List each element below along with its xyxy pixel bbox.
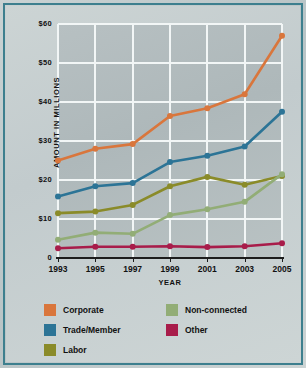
legend-item[interactable]: Corporate [44, 304, 121, 316]
x-axis-tick [170, 257, 171, 262]
legend-swatch-icon [166, 324, 178, 336]
y-axis-tick-label: 0 [18, 253, 52, 262]
y-axis-tick-label: $10 [18, 214, 52, 223]
gridline-vertical [132, 24, 134, 258]
y-axis-tick-label: $40 [18, 97, 52, 106]
x-axis-tick-label: 2001 [187, 264, 227, 274]
gridline-vertical [244, 24, 246, 258]
x-axis-title: YEAR [58, 278, 282, 287]
y-axis-tick-label: $60 [18, 19, 52, 28]
legend-item[interactable]: Trade/Member [44, 324, 121, 336]
x-axis-tick-label: 2003 [225, 264, 265, 274]
x-axis-tick [245, 257, 246, 262]
gridline-vertical [94, 24, 96, 258]
legend-item[interactable]: Labor [44, 344, 121, 356]
legend-swatch-icon [44, 324, 56, 336]
gridline-vertical [169, 24, 171, 258]
x-axis-tick [95, 257, 96, 262]
x-axis-tick-label: 1993 [38, 264, 78, 274]
y-axis-tick-label: $30 [18, 136, 52, 145]
legend-column-left: CorporateTrade/MemberLabor [44, 304, 121, 364]
y-axis-tick-label: $20 [18, 175, 52, 184]
legend-label: Labor [63, 345, 87, 355]
x-axis-tick-label: 1999 [150, 264, 190, 274]
gridline-vertical [206, 24, 208, 258]
legend-item[interactable]: Non-connected [166, 304, 247, 316]
x-axis-tick-label: 2005 [262, 264, 302, 274]
legend-label: Other [185, 325, 208, 335]
legend-column-right: Non-connectedOther [166, 304, 247, 344]
legend-swatch-icon [44, 344, 56, 356]
x-axis-tick [282, 257, 283, 262]
legend-item[interactable]: Other [166, 324, 247, 336]
legend-label: Corporate [63, 305, 104, 315]
legend-swatch-icon [166, 304, 178, 316]
legend-label: Trade/Member [63, 325, 121, 335]
legend-swatch-icon [44, 304, 56, 316]
chart-figure: $60$50$40$30$20$100 19931995199719992001… [0, 0, 306, 368]
x-axis-tick [133, 257, 134, 262]
x-axis-tick-label: 1997 [113, 264, 153, 274]
y-axis-tick-label: $50 [18, 58, 52, 67]
x-axis-tick [58, 257, 59, 262]
y-axis-title: AMOUNT IN MILLIONS [52, 63, 61, 183]
plot-area [58, 24, 282, 258]
x-axis-tick-label: 1995 [75, 264, 115, 274]
legend-label: Non-connected [185, 305, 247, 315]
x-axis-tick [207, 257, 208, 262]
gridline-vertical [281, 24, 283, 258]
